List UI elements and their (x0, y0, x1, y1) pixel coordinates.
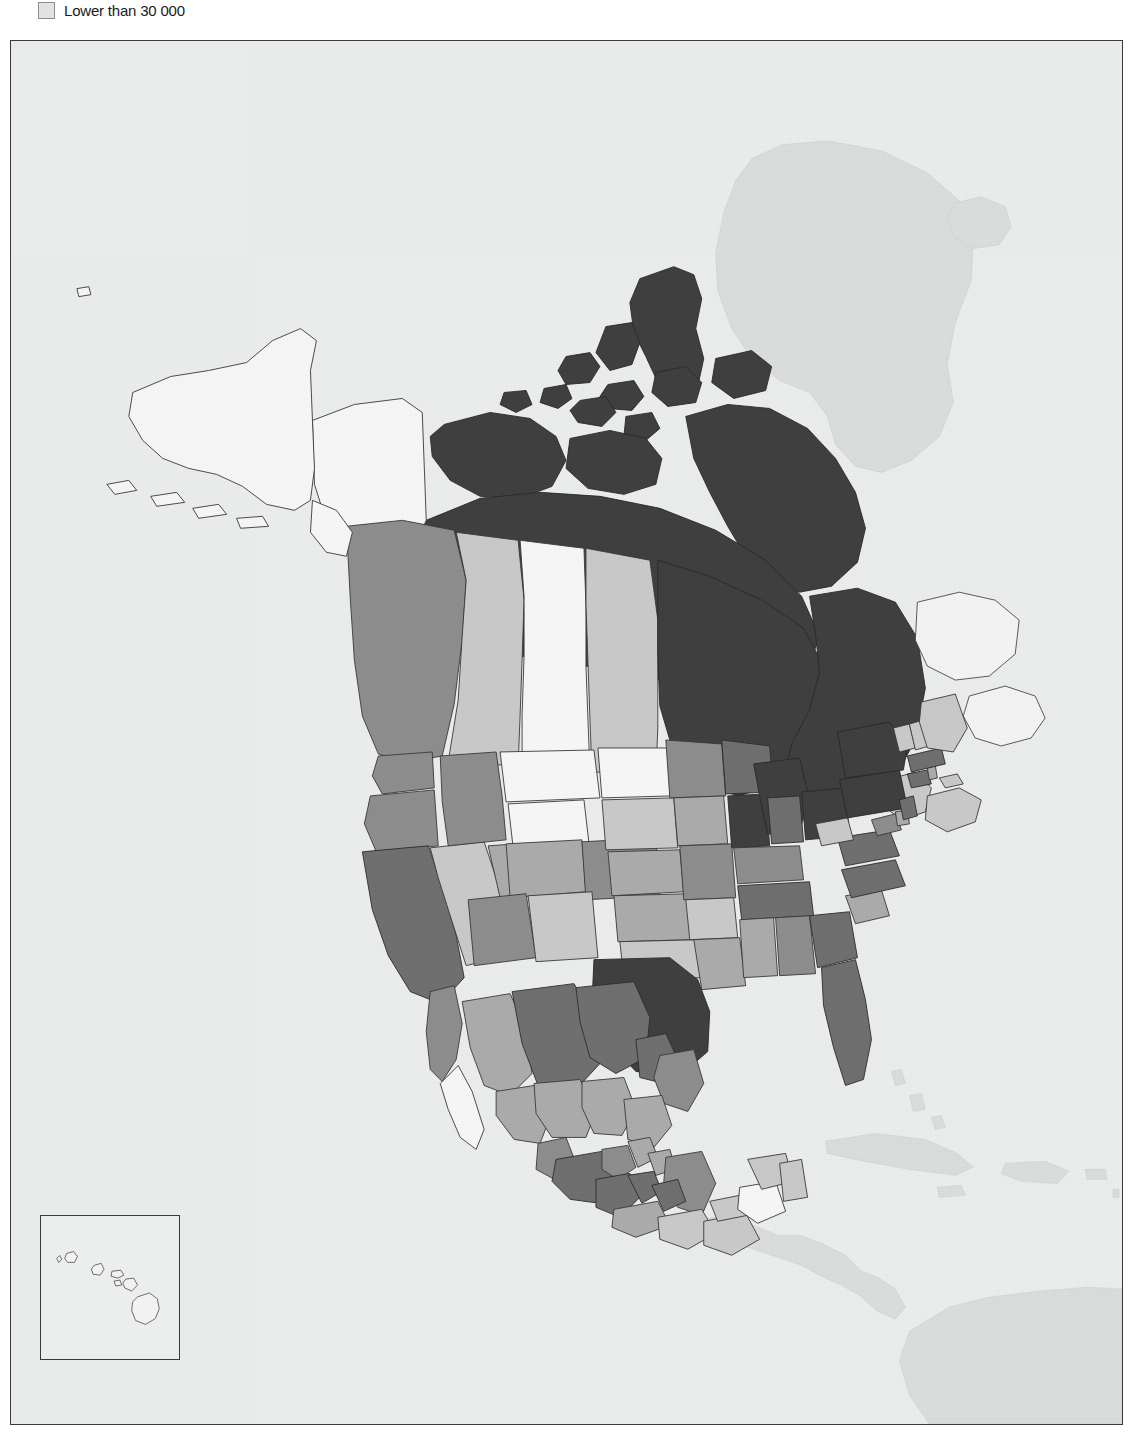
region-arkansas (686, 898, 738, 940)
legend-item-label: Lower than 30 000 (64, 3, 185, 18)
region-montana (500, 750, 600, 802)
legend-swatch-icon (38, 2, 55, 19)
region-alabama (776, 916, 816, 976)
region-south-dakota (602, 798, 678, 850)
region-kentucky (734, 846, 804, 884)
region-mississippi (740, 918, 778, 978)
region-louisiana (694, 938, 746, 990)
region-oregon (364, 790, 438, 852)
region-idaho (440, 752, 506, 846)
jamaica-shape (937, 1185, 965, 1197)
region-kansas (614, 894, 692, 942)
region-utah (506, 840, 586, 898)
hawaii-inset-background (41, 1216, 179, 1359)
region-georgia (810, 912, 858, 968)
region-saskatchewan (520, 540, 590, 770)
region-iowa (674, 796, 728, 846)
region-missouri (680, 844, 736, 900)
region-manitoba (586, 548, 658, 774)
region-washington (372, 752, 434, 794)
map-legend: Lower than 30 000 (0, 0, 1137, 38)
region-nebraska (608, 850, 684, 896)
hawaii-inset-map (41, 1216, 179, 1359)
legend-item-lower-than-30000: Lower than 30 000 (38, 2, 185, 19)
region-indiana (768, 796, 804, 844)
region-arizona (468, 894, 536, 966)
hawaii-inset-box[interactable] (40, 1215, 180, 1360)
region-minnesota (666, 740, 726, 798)
region-new-mexico (528, 892, 598, 962)
region-north-dakota (598, 748, 672, 798)
region-tennessee (738, 882, 814, 920)
